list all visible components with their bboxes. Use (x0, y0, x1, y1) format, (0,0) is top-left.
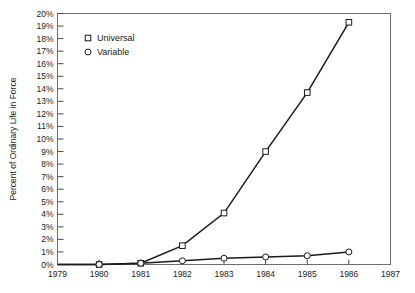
x-axis-tick-label: 1984 (256, 269, 275, 279)
data-point-variable-1985 (304, 253, 310, 259)
y-axis-tick-label: 6% (41, 184, 54, 194)
data-point-universal-1985 (304, 90, 310, 96)
legend-marker-variable (85, 49, 91, 55)
x-axis-tick-label: 1980 (90, 269, 109, 279)
y-axis-tick-label: 4% (41, 209, 54, 219)
y-axis-tick-label: 10% (36, 134, 53, 144)
y-axis-tick-label: 15% (36, 71, 53, 81)
y-axis-tick-label: 12% (36, 109, 53, 119)
x-axis-tick-label: 1985 (298, 269, 317, 279)
legend-label-variable: Variable (97, 47, 129, 57)
y-axis-tick-label: 8% (41, 159, 54, 169)
series-line-universal (58, 22, 349, 264)
line-chart: 0%1%2%3%4%5%6%7%8%9%10%11%12%13%14%15%16… (0, 0, 415, 293)
data-point-variable-1981 (138, 260, 144, 266)
y-axis-tick-label: 7% (41, 172, 54, 182)
data-point-universal-1982 (180, 243, 186, 249)
y-axis-tick-label: 3% (41, 222, 54, 232)
x-axis-tick-label: 1983 (215, 269, 234, 279)
x-axis-tick-label: 1982 (173, 269, 192, 279)
x-axis-tick-label: 1979 (48, 269, 67, 279)
data-point-universal-1986 (346, 19, 352, 25)
data-point-variable-1980 (96, 262, 102, 268)
y-axis-title: Percent of Ordinary Life in Force (8, 77, 18, 200)
data-point-variable-1986 (346, 249, 352, 255)
data-point-variable-1982 (179, 258, 185, 264)
y-axis-tick-label: 19% (36, 21, 53, 31)
data-point-universal-1983 (221, 210, 227, 216)
y-axis-tick-label: 14% (36, 84, 53, 94)
data-point-universal-1984 (263, 149, 269, 155)
x-axis-tick-label: 1981 (131, 269, 150, 279)
y-axis-tick-label: 18% (36, 34, 53, 44)
data-point-variable-1984 (263, 254, 269, 260)
legend-marker-universal (85, 35, 91, 41)
y-axis-tick-label: 20% (36, 9, 53, 19)
x-axis-tick-label: 1986 (339, 269, 358, 279)
y-axis-tick-label: 17% (36, 46, 53, 56)
legend-label-universal: Universal (97, 33, 135, 43)
y-axis-tick-label: 13% (36, 96, 53, 106)
data-point-variable-1983 (221, 255, 227, 261)
y-axis-tick-label: 11% (37, 121, 54, 131)
x-axis-tick-label: 1987 (381, 269, 400, 279)
y-axis-tick-label: 1% (41, 247, 54, 257)
y-axis-tick-label: 5% (41, 197, 54, 207)
y-axis-tick-label: 16% (36, 59, 53, 69)
chart-container: 0%1%2%3%4%5%6%7%8%9%10%11%12%13%14%15%16… (0, 0, 415, 293)
y-axis-tick-label: 2% (41, 234, 54, 244)
y-axis-tick-label: 9% (41, 147, 54, 157)
